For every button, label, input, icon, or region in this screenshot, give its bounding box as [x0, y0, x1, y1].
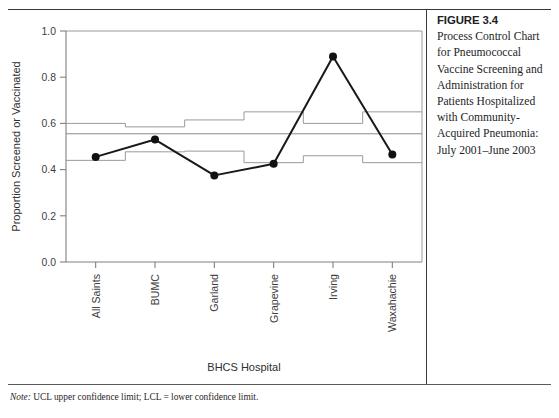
data-point-marker[interactable]	[388, 151, 396, 159]
chart-plot-area: 0.00.20.40.60.81.0All SaintsBUMCGarlandG…	[0, 0, 426, 384]
data-point-marker[interactable]	[329, 52, 337, 60]
process-control-chart: 0.00.20.40.60.81.0All SaintsBUMCGarlandG…	[0, 0, 426, 384]
plot-frame	[66, 31, 422, 262]
data-point-marker[interactable]	[92, 153, 100, 161]
x-axis-title: BHCS Hospital	[207, 361, 280, 373]
figure-caption-text: Process Control Chart for Pneumococcal V…	[437, 29, 555, 159]
y-axis-title: Proportion Screened or Vaccinated	[10, 61, 22, 231]
data-point-marker[interactable]	[270, 160, 278, 168]
x-axis-tick-label: Waxahachie	[386, 274, 398, 332]
figure-number: FIGURE 3.4	[437, 12, 555, 28]
y-axis-tick-label: 0.8	[42, 72, 57, 83]
x-axis-tick-label: Irving	[327, 274, 339, 300]
y-axis-tick-label: 0.4	[42, 164, 57, 175]
figure-note: Note: UCL upper confidence limit; LCL = …	[10, 391, 430, 403]
data-point-marker[interactable]	[151, 136, 159, 144]
y-axis-tick-label: 1.0	[42, 26, 57, 37]
figure-page: 0.00.20.40.60.81.0All SaintsBUMCGarlandG…	[0, 0, 559, 418]
lower-control-limit-line	[66, 151, 422, 163]
note-label: Note:	[10, 392, 31, 402]
data-point-marker[interactable]	[210, 171, 218, 179]
x-axis-tick-label: Grapevine	[268, 274, 280, 323]
x-axis-tick-label: All Saints	[90, 274, 102, 318]
x-axis-tick-label: BUMC	[149, 274, 161, 306]
y-axis-tick-label: 0.2	[42, 211, 57, 222]
y-axis-tick-label: 0.0	[42, 257, 57, 268]
y-axis-tick-label: 0.6	[42, 118, 57, 129]
figure-caption: FIGURE 3.4 Process Control Chart for Pne…	[437, 12, 555, 159]
vertical-divider-rule	[426, 9, 427, 384]
x-axis-tick-label: Garland	[208, 274, 220, 312]
bottom-divider-rule	[8, 384, 551, 385]
note-text: UCL upper confidence limit; LCL = lower …	[31, 392, 258, 402]
